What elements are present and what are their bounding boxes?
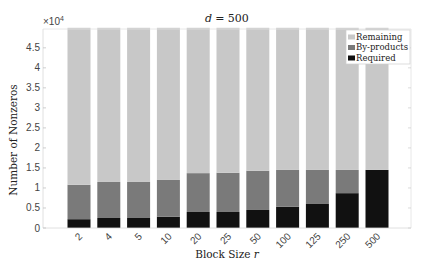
x-tick-label: 250 [333, 230, 353, 250]
bar-group-10 [157, 28, 180, 228]
y-multiplier: ×104 [43, 15, 64, 27]
bar-group-125 [306, 28, 329, 228]
bar-segment-remaining [246, 28, 269, 171]
x-tick-label: 25 [218, 230, 234, 246]
bar-segment-remaining [157, 28, 180, 180]
bar-segment-by-products [276, 170, 299, 207]
bar-segment-required [366, 170, 389, 228]
legend: RemainingBy-productsRequired [346, 30, 410, 64]
bar-segment-remaining [97, 28, 120, 182]
bar-group-50 [246, 28, 269, 228]
bar-segment-required [276, 207, 299, 228]
y-tick-label: 4 [34, 62, 40, 73]
y-tick-label: 0 [34, 223, 40, 234]
x-tick-label: 4 [103, 230, 115, 242]
bar-segment-required [68, 219, 91, 228]
bar-segment-remaining [68, 28, 91, 185]
bar-segment-required [97, 218, 120, 228]
bar-group-2 [68, 28, 91, 228]
bar-segment-required [127, 218, 150, 228]
y-tick-label: 2.5 [26, 122, 40, 133]
y-tick-label: 3 [34, 102, 40, 113]
y-tick-label: 1 [34, 182, 40, 193]
x-tick-label: 2 [73, 230, 85, 242]
legend-label: Required [356, 53, 396, 63]
bar-group-20 [187, 28, 210, 228]
x-tick-label: 50 [248, 230, 264, 246]
bar-segment-required [246, 210, 269, 228]
chart-title: d= 500 [205, 12, 249, 25]
bar-segment-remaining [187, 28, 210, 173]
bar-segment-remaining [127, 28, 150, 182]
x-tick-label: 125 [303, 230, 323, 250]
bar-segment-by-products [68, 185, 91, 219]
bar-segment-by-products [217, 173, 240, 212]
bar-segment-by-products [127, 182, 150, 218]
bar-segment-remaining [217, 28, 240, 173]
x-axis-label: Block Size r [195, 248, 260, 260]
bar-segment-required [157, 217, 180, 228]
bars [68, 28, 389, 228]
y-tick-label: 4.5 [26, 42, 40, 53]
legend-label: Remaining [356, 32, 403, 42]
x-tick-label: 20 [188, 230, 204, 246]
bar-segment-by-products [97, 182, 120, 218]
y-axis-label: Number of Nonzeros [7, 84, 19, 196]
bar-segment-required [217, 212, 240, 228]
x-tick-label: 100 [273, 230, 293, 250]
bar-group-4 [97, 28, 120, 228]
stacked-bar-chart: 00.511.522.533.544.5 2451020255010012525… [0, 0, 425, 277]
y-tick-label: 0.5 [26, 202, 40, 213]
y-tick-label: 1.5 [26, 162, 40, 173]
x-tick-label: 500 [363, 230, 383, 250]
bar-segment-by-products [306, 170, 329, 204]
bar-segment-by-products [157, 180, 180, 217]
bar-segment-by-products [187, 173, 210, 212]
bar-segment-required [306, 204, 329, 228]
legend-swatch-by-products [348, 45, 355, 50]
legend-label: By-products [356, 42, 408, 52]
legend-swatch-required [348, 56, 355, 61]
bar-segment-by-products [336, 170, 359, 193]
y-tick-label: 3.5 [26, 82, 40, 93]
bar-segment-remaining [306, 28, 329, 170]
x-tick-label: 10 [158, 230, 174, 246]
bar-group-100 [276, 28, 299, 228]
bar-segment-required [187, 212, 210, 228]
bar-segment-by-products [246, 171, 269, 210]
x-tick-label: 5 [132, 230, 144, 242]
legend-swatch-remaining [348, 35, 355, 40]
bar-segment-required [336, 193, 359, 228]
bar-segment-remaining [276, 28, 299, 170]
y-tick-label: 2 [34, 142, 40, 153]
bar-group-25 [217, 28, 240, 228]
bar-group-5 [127, 28, 150, 228]
